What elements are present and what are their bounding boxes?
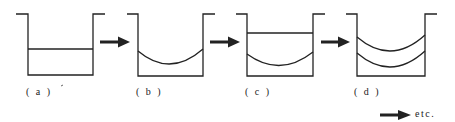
panel-label-b: ( b ) bbox=[136, 86, 163, 97]
process-diagram bbox=[0, 0, 455, 122]
curved-layer-line-lower bbox=[357, 51, 425, 67]
panel-label-c: ( c ) bbox=[245, 86, 271, 97]
vessel-a bbox=[16, 14, 105, 75]
curved-layer-line bbox=[247, 52, 313, 66]
etc-label: etc. bbox=[415, 108, 435, 119]
arrows bbox=[100, 37, 411, 121]
curved-layer-line bbox=[138, 49, 203, 64]
stray-mark bbox=[61, 85, 63, 86]
panel-label-d: ( d ) bbox=[354, 86, 381, 97]
vessel-d bbox=[346, 14, 437, 76]
panel-label-a: ( a ) bbox=[26, 86, 52, 97]
arrow-right-icon bbox=[210, 37, 240, 48]
arrow-right-icon bbox=[380, 110, 411, 120]
vessel-b bbox=[127, 14, 215, 76]
curved-layer-line-upper bbox=[357, 35, 425, 51]
vessel-c bbox=[236, 14, 325, 76]
arrow-right-icon bbox=[100, 37, 130, 48]
arrow-right-icon bbox=[321, 37, 350, 48]
